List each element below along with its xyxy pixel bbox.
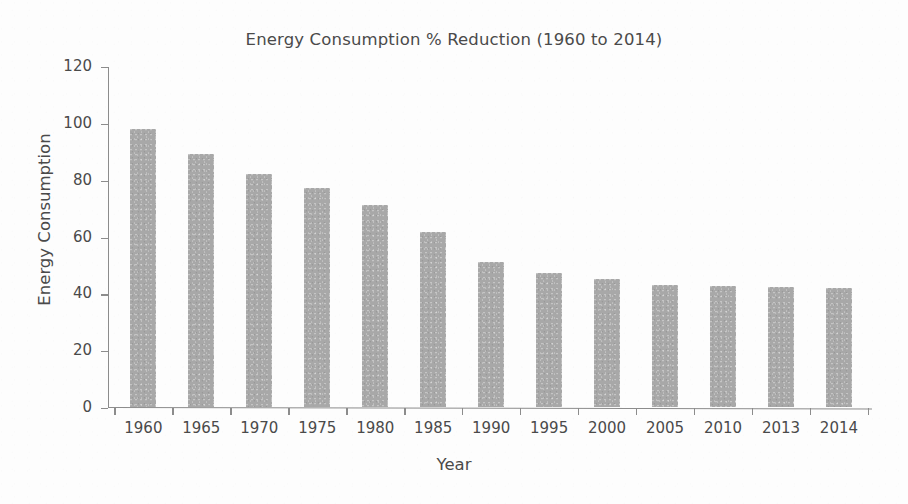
bar[interactable]	[826, 288, 852, 407]
y-axis-tick: 40	[101, 294, 108, 295]
x-axis-tick	[694, 408, 695, 415]
bar-group[interactable]	[652, 285, 678, 407]
x-axis-tick-label: 2014	[804, 419, 874, 437]
x-axis-tick	[636, 408, 637, 415]
y-axis-tick-label: 100	[63, 114, 92, 132]
x-axis-tick	[752, 408, 753, 415]
x-axis-tick	[288, 408, 289, 415]
y-axis-tick: 0	[101, 408, 108, 409]
x-axis-tick	[520, 408, 521, 415]
x-axis-tick	[172, 408, 173, 415]
bar[interactable]	[652, 285, 678, 407]
y-axis-tick-label: 0	[82, 398, 92, 416]
y-axis-tick: 100	[101, 124, 108, 125]
x-axis-line	[108, 407, 872, 410]
bar-group[interactable]	[710, 286, 736, 407]
bar[interactable]	[478, 262, 504, 407]
bar-group[interactable]	[594, 279, 620, 407]
bar[interactable]	[362, 205, 388, 407]
y-axis-tick-label: 40	[73, 284, 92, 302]
bar[interactable]	[536, 273, 562, 407]
bar-group[interactable]	[478, 262, 504, 407]
bar-group[interactable]	[246, 174, 272, 407]
y-axis-tick: 120	[101, 67, 108, 68]
x-axis-title: Year	[0, 455, 908, 474]
bar[interactable]	[710, 286, 736, 407]
y-axis-tick-label: 60	[73, 228, 92, 246]
x-axis-tick	[578, 408, 579, 415]
plot-area: 020406080100120 196019651970197519801985…	[108, 67, 872, 408]
bar-group[interactable]	[536, 273, 562, 407]
x-axis-tick	[810, 408, 811, 415]
bar-group[interactable]	[768, 287, 794, 407]
x-axis-tick	[114, 408, 115, 415]
bar-group[interactable]	[420, 232, 446, 407]
bar[interactable]	[246, 174, 272, 407]
y-axis-tick: 20	[101, 351, 108, 352]
bar[interactable]	[130, 129, 156, 407]
y-axis-tick-label: 20	[73, 341, 92, 359]
y-axis-tick: 80	[101, 181, 108, 182]
y-axis-tick-label: 80	[73, 171, 92, 189]
bar[interactable]	[768, 287, 794, 407]
x-axis-tick	[462, 408, 463, 415]
bar[interactable]	[304, 188, 330, 407]
x-axis-tick	[868, 408, 869, 415]
bar[interactable]	[594, 279, 620, 407]
x-axis-tick	[404, 408, 405, 415]
bar-group[interactable]	[130, 129, 156, 407]
y-axis-tick: 60	[101, 238, 108, 239]
x-axis-tick	[346, 408, 347, 415]
x-axis-tick	[230, 408, 231, 415]
y-axis-title: Energy Consumption	[35, 90, 54, 350]
bar-group[interactable]	[304, 188, 330, 407]
bar-group[interactable]	[362, 205, 388, 407]
bar-group[interactable]	[188, 154, 214, 407]
bar[interactable]	[420, 232, 446, 407]
bar-group[interactable]	[826, 288, 852, 407]
y-axis-tick-label: 120	[63, 57, 92, 75]
y-axis-line	[108, 67, 109, 408]
bar[interactable]	[188, 154, 214, 407]
chart-title: Energy Consumption % Reduction (1960 to …	[0, 30, 908, 49]
bar-chart-figure: Energy Consumption % Reduction (1960 to …	[0, 0, 908, 504]
